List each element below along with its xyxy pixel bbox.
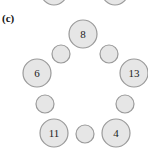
- node-label: 8: [80, 28, 86, 40]
- node-label: 4: [113, 127, 119, 139]
- small-node: [116, 95, 134, 113]
- small-node: [100, 45, 118, 63]
- partial-node: [41, 0, 67, 5]
- node-label: 11: [49, 127, 60, 139]
- node-label: 13: [129, 67, 141, 79]
- small-node: [36, 95, 54, 113]
- partial-node: [102, 0, 128, 5]
- node-label: 6: [34, 67, 40, 79]
- small-node: [76, 125, 94, 143]
- small-node: [52, 45, 70, 63]
- pentagon-node-diagram: 8613114: [0, 0, 148, 150]
